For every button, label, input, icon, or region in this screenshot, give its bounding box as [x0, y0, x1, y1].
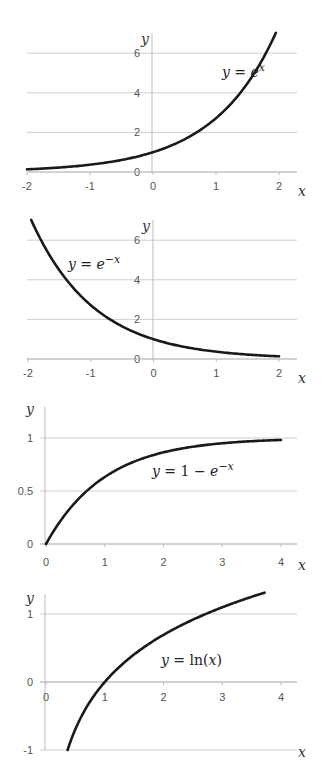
- x-tick-label: 0: [43, 556, 49, 568]
- x-tick-label: 2: [160, 556, 166, 568]
- y-tick-label: 0.5: [18, 485, 33, 497]
- y-tick-label: 4: [134, 87, 140, 99]
- y-tick-label: 6: [134, 47, 140, 59]
- y-tick-label: 0: [27, 676, 33, 688]
- function-curve: [46, 440, 281, 544]
- y-axis-label: y: [25, 401, 35, 417]
- x-tick-label: 1: [102, 556, 108, 568]
- equation-label: y = e−x: [67, 253, 121, 272]
- y-tick-label: -1: [23, 744, 33, 756]
- equation-label: y = ln(x): [160, 652, 222, 668]
- x-axis-label: x: [298, 744, 306, 760]
- x-tick-label: 0: [150, 180, 156, 192]
- chart-3: 00.5101234xyy = 1 − e−x: [18, 401, 306, 573]
- x-tick-label: 1: [102, 691, 108, 703]
- y-tick-label: 1: [27, 608, 33, 620]
- y-axis-label: y: [141, 218, 151, 234]
- x-tick-label: 1: [213, 180, 219, 192]
- chart-2: 0246-2-1012xyy = e−x: [23, 218, 306, 386]
- x-axis-label: x: [298, 557, 306, 573]
- x-tick-label: -1: [85, 180, 95, 192]
- x-tick-label: 3: [219, 556, 225, 568]
- x-tick-label: 4: [278, 556, 284, 568]
- x-tick-label: 4: [278, 691, 284, 703]
- y-tick-label: 0: [27, 538, 33, 550]
- y-axis-label: y: [25, 590, 35, 606]
- x-axis-label: x: [298, 370, 306, 386]
- chart-1: 0246-2-1012xyy = ex: [22, 31, 306, 199]
- chart-4: -10101234xyy = ln(x): [23, 590, 306, 760]
- x-tick-label: -2: [22, 180, 32, 192]
- x-tick-label: 1: [213, 367, 219, 379]
- equation-label: y = 1 − e−x: [151, 460, 235, 479]
- y-tick-label: 2: [134, 313, 140, 325]
- x-tick-label: 0: [150, 367, 156, 379]
- y-tick-label: 4: [134, 274, 140, 286]
- x-tick-label: 2: [276, 367, 282, 379]
- function-curve: [68, 593, 265, 750]
- y-tick-label: 6: [134, 234, 140, 246]
- x-tick-label: -1: [86, 367, 96, 379]
- y-tick-label: 1: [27, 432, 33, 444]
- equation-label: y = ex: [221, 61, 266, 80]
- x-tick-label: 2: [276, 180, 282, 192]
- y-tick-label: 2: [134, 126, 140, 138]
- function-plots: 0246-2-1012xyy = ex0246-2-1012xyy = e−x0…: [0, 0, 329, 780]
- x-tick-label: 3: [219, 691, 225, 703]
- x-axis-label: x: [298, 183, 306, 199]
- y-axis-label: y: [140, 31, 150, 47]
- x-tick-label: 0: [43, 691, 49, 703]
- x-tick-label: -2: [23, 367, 33, 379]
- x-tick-label: 2: [160, 691, 166, 703]
